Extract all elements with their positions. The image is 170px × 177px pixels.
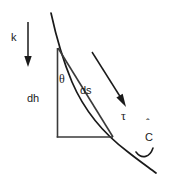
curve-arclength-diagram: k θ dh ds τ ˆ C <box>0 0 170 177</box>
label-c-hat: C <box>145 131 153 143</box>
tangent-vector-arrow <box>92 52 126 107</box>
label-ds: ds <box>80 84 92 96</box>
label-dh: dh <box>27 92 39 104</box>
label-tau: τ <box>121 109 126 123</box>
gravity-vector-arrow <box>24 22 31 67</box>
tangent-arrow-head <box>116 94 126 107</box>
gravity-arrow-head <box>24 56 31 67</box>
curve-path <box>51 13 156 173</box>
c-hat-pointer-arc <box>136 148 153 157</box>
label-c-hat-accent: ˆ <box>146 117 150 129</box>
label-k: k <box>11 31 17 43</box>
label-theta: θ <box>59 72 65 86</box>
diagram-canvas: k θ dh ds τ ˆ C <box>0 0 170 177</box>
